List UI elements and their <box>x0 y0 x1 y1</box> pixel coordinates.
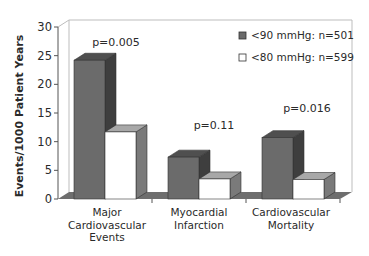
y-axis: 051015202530 <box>37 20 58 206</box>
x-category-label: CardiovascularMortality <box>252 206 331 231</box>
legend-swatch-dark <box>239 32 246 39</box>
legend: <90 mmHg: n=501 <80 mmHg: n=599 <box>239 29 354 63</box>
legend-swatch-white <box>239 54 246 61</box>
y-tick-label: 5 <box>45 163 52 177</box>
legend-item-series-1: <90 mmHg: n=501 <box>239 29 354 41</box>
legend-item-series-2: <80 mmHg: n=599 <box>239 51 354 63</box>
bar <box>199 172 241 199</box>
legend-label-series-1: <90 mmHg: n=501 <box>251 29 354 41</box>
bar-chart: 051015202530 p=0.005p=0.11p=0.016 MajorC… <box>0 0 369 256</box>
bar <box>293 173 335 199</box>
x-axis-ticks <box>152 199 340 203</box>
bar <box>105 125 147 199</box>
y-tick-label: 15 <box>37 106 52 120</box>
y-axis-title: Events/1000 Patient Years <box>13 34 26 197</box>
x-axis-category-labels: MajorCardiovascularEventsMyocardialInfar… <box>68 206 331 243</box>
x-category-label: MyocardialInfarction <box>171 206 228 231</box>
p-value-label: p=0.016 <box>283 102 331 115</box>
p-value-label: p=0.005 <box>92 36 140 49</box>
y-tick-label: 30 <box>37 20 52 34</box>
y-tick-label: 25 <box>37 49 52 63</box>
y-tick-label: 10 <box>37 135 52 149</box>
y-tick-label: 0 <box>45 192 52 206</box>
p-value-label: p=0.11 <box>194 119 235 132</box>
y-tick-label: 20 <box>37 77 52 91</box>
x-category-label: MajorCardiovascularEvents <box>68 206 147 243</box>
legend-label-series-2: <80 mmHg: n=599 <box>251 51 354 63</box>
